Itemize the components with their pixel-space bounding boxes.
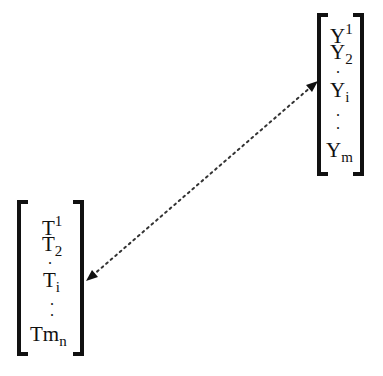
y-entry-m: Ym — [326, 140, 353, 165]
y-left-bracket — [319, 15, 326, 174]
y-entry-2: Y2 — [330, 42, 353, 67]
t-entry-2: T2 — [42, 234, 62, 259]
t-entry-m: Tmn — [30, 324, 67, 349]
t-ellipsis-1: . — [48, 251, 52, 267]
t-ellipsis-3: . — [50, 303, 54, 319]
y-ellipsis-1: . — [336, 60, 340, 76]
t-right-bracket — [75, 202, 82, 354]
y-ellipsis-3: . — [336, 116, 340, 132]
t-left-bracket — [19, 202, 26, 354]
dotted-double-arrow — [86, 81, 318, 281]
diagram-canvas — [0, 0, 383, 376]
y-right-bracket — [355, 15, 362, 174]
